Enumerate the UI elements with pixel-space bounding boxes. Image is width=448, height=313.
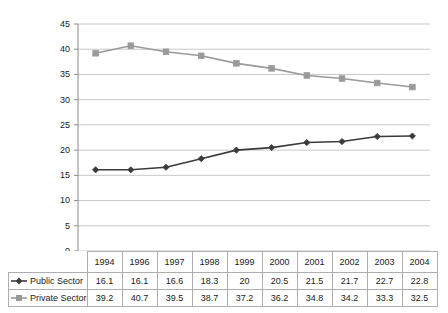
y-axis-tick-label: 30 (60, 95, 70, 105)
table-column-header: 1996 (122, 252, 157, 273)
data-point-marker (234, 61, 240, 67)
legend-entry: Private Sector (11, 290, 87, 306)
data-point-marker (374, 80, 380, 86)
table-value-cell: 20 (227, 273, 262, 290)
table-corner-cell (9, 252, 88, 273)
y-axis-tick-label: 35 (60, 69, 70, 79)
y-axis-tick-label: 45 (60, 19, 70, 29)
series-line-public-sector (96, 136, 413, 170)
data-point-marker (233, 147, 239, 153)
y-axis-tick-label: 25 (60, 120, 70, 130)
legend-cell-private-sector: Private Sector (9, 290, 88, 307)
series-line-private-sector (96, 46, 413, 87)
table-header-row: 1994199619971998199920002001200220032004 (9, 252, 438, 273)
table-row: Public Sector16.116.116.618.32020.521.52… (9, 273, 438, 290)
table-value-cell: 20.5 (262, 273, 297, 290)
table-column-header: 2001 (297, 252, 332, 273)
table-column-header: 2000 (262, 252, 297, 273)
data-point-marker (198, 156, 204, 162)
table-column-header: 2002 (332, 252, 367, 273)
data-point-marker (269, 66, 275, 72)
legend-label: Private Sector (30, 293, 87, 303)
legend-square-marker-icon (11, 293, 27, 303)
legend-marker (16, 278, 23, 285)
data-point-marker (93, 50, 99, 56)
y-axis-ticks-group (74, 24, 78, 251)
table-value-cell: 18.3 (192, 273, 227, 290)
data-point-marker (163, 164, 169, 170)
table-column-header: 2004 (402, 252, 437, 273)
y-axis-labels-group: 051015202530354045 (60, 19, 70, 252)
table-value-cell: 39.2 (87, 290, 122, 307)
table-column-header: 1997 (157, 252, 192, 273)
data-point-marker (409, 133, 415, 139)
y-axis-tick-label: 20 (60, 145, 70, 155)
series-markers-group (93, 43, 416, 173)
table-value-cell: 36.2 (262, 290, 297, 307)
table-value-cell: 16.1 (122, 273, 157, 290)
data-point-marker (163, 49, 169, 55)
y-axis-tick-label: 15 (60, 170, 70, 180)
plot-area: 051015202530354045 (0, 0, 448, 252)
table-value-cell: 40.7 (122, 290, 157, 307)
legend-diamond-marker-icon (11, 276, 27, 286)
legend-cell-public-sector: Public Sector (9, 273, 88, 290)
table-value-cell: 34.2 (332, 290, 367, 307)
table-column-header: 1994 (87, 252, 122, 273)
legend-entry: Public Sector (11, 273, 87, 289)
data-point-marker (128, 43, 134, 49)
table-value-cell: 16.1 (87, 273, 122, 290)
legend-label: Public Sector (30, 276, 83, 286)
data-point-marker (93, 167, 99, 173)
data-point-marker (374, 133, 380, 139)
line-chart-with-data-table: 051015202530354045 199419961997199819992… (0, 0, 448, 313)
data-table: 1994199619971998199920002001200220032004… (8, 251, 438, 307)
data-point-marker (198, 53, 204, 59)
table-column-header: 2003 (367, 252, 402, 273)
table-row: Private Sector39.240.739.538.737.236.234… (9, 290, 438, 307)
table-value-cell: 33.3 (367, 290, 402, 307)
table-value-cell: 34.8 (297, 290, 332, 307)
y-axis-tick-label: 40 (60, 44, 70, 54)
data-point-marker (304, 73, 310, 79)
plot-svg: 051015202530354045 (0, 0, 448, 252)
table-value-cell: 16.6 (157, 273, 192, 290)
table-value-cell: 22.7 (367, 273, 402, 290)
data-point-marker (339, 76, 345, 82)
table-value-cell: 32.5 (402, 290, 437, 307)
table-value-cell: 38.7 (192, 290, 227, 307)
table-value-cell: 22.8 (402, 273, 437, 290)
data-point-marker (128, 167, 134, 173)
legend-marker (16, 295, 22, 301)
series-lines-group (96, 46, 413, 170)
data-point-marker (410, 84, 416, 90)
data-point-marker (304, 139, 310, 145)
y-axis-tick-label: 10 (60, 195, 70, 205)
table-column-header: 1999 (227, 252, 262, 273)
table-value-cell: 37.2 (227, 290, 262, 307)
data-point-marker (339, 138, 345, 144)
table-value-cell: 39.5 (157, 290, 192, 307)
y-axis-tick-label: 5 (65, 221, 70, 231)
table-value-cell: 21.5 (297, 273, 332, 290)
table-column-header: 1998 (192, 252, 227, 273)
table-value-cell: 21.7 (332, 273, 367, 290)
